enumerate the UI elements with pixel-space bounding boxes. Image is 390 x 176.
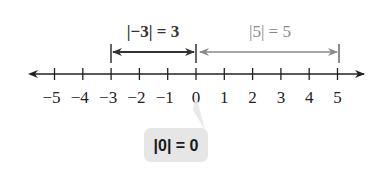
distance-bracket-neg-three [111,44,196,63]
tick-label: −5 [42,88,60,107]
tick-label: 4 [305,88,314,107]
tick-label: −3 [99,88,117,107]
number-line-diagram: |−3| = 3 |5| = 5 −5−4−3−2−1012345 |0| = … [0,0,390,176]
tick-label: 5 [333,88,342,107]
abs-five-label: |5| = 5 [249,22,291,41]
zero-callout: |0| = 0 [144,95,208,162]
tick-label: 2 [248,88,257,107]
tick-label: −1 [156,88,174,107]
tick-label: 3 [277,88,286,107]
distance-bracket-five [200,44,339,63]
tick-label: −2 [127,88,145,107]
abs-neg-three-label: |−3| = 3 [127,22,179,41]
abs-zero-label: |0| = 0 [154,137,199,154]
tick-label: −4 [71,88,90,107]
tick-labels: −5−4−3−2−1012345 [42,88,341,107]
tick-label: 1 [220,88,229,107]
